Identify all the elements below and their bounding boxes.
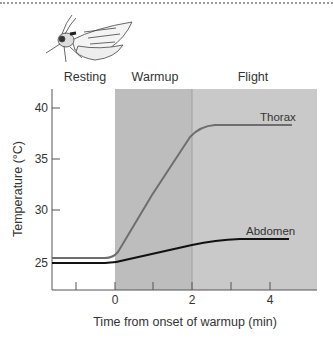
abdomen-label: Abdomen — [246, 225, 295, 237]
x-tick-0: 0 — [112, 293, 119, 307]
y-tick-30: 30 — [35, 203, 49, 217]
phase-label-warmup: Warmup — [132, 70, 179, 84]
x-tick-4: 4 — [267, 293, 274, 307]
phase-label-resting: Resting — [64, 70, 106, 84]
y-axis-label: Temperature (°C) — [11, 141, 25, 237]
y-tick-35: 35 — [35, 152, 49, 166]
moth-icon — [46, 15, 132, 62]
flight-region — [192, 89, 317, 290]
temperature-chart: 40 35 30 25 0 2 4 Resting Warmup Flight … — [0, 0, 333, 338]
thorax-label: Thorax — [260, 111, 296, 123]
x-tick-2: 2 — [189, 293, 196, 307]
y-tick-25: 25 — [35, 256, 49, 270]
y-tick-40: 40 — [35, 101, 49, 115]
x-axis-label: Time from onset of warmup (min) — [93, 315, 277, 329]
phase-label-flight: Flight — [238, 70, 269, 84]
